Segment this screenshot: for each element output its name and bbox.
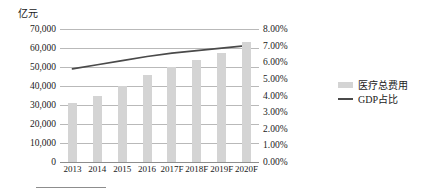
y-axis-left-tick-label: 60,000 <box>30 43 56 53</box>
bar-swatch-icon <box>338 82 353 88</box>
y-axis-right-tick-label: 4.00% <box>263 91 288 101</box>
y-axis-left: 010,00020,00030,00040,00050,00060,00070,… <box>0 29 56 162</box>
plot-area <box>60 29 259 162</box>
x-axis-tick-label: 2015 <box>113 163 131 175</box>
x-axis-tick-label: 2019F <box>210 163 233 175</box>
bar <box>192 60 201 162</box>
x-axis-tick-label: 2018F <box>185 163 208 175</box>
bar <box>93 96 102 163</box>
x-axis-tick-label: 2013 <box>63 163 81 175</box>
legend-item-label: 医疗总费用 <box>358 79 408 92</box>
legend-item-label: GDP占比 <box>358 93 398 106</box>
legend-item-total-health-expenditure: 医疗总费用 <box>338 78 426 92</box>
line-swatch-icon <box>338 98 353 100</box>
bar <box>143 75 152 162</box>
bar <box>118 86 127 162</box>
y-axis-right-tick-label: 0.00% <box>263 157 288 167</box>
x-axis-tick-label: 2016 <box>138 163 156 175</box>
y-axis-left-tick-label: 0 <box>51 157 56 167</box>
x-axis-tick-label: 2014 <box>88 163 106 175</box>
y-axis-left-tick-label: 20,000 <box>30 119 56 129</box>
y-axis-right: 0.00%1.00%2.00%3.00%4.00%5.00%6.00%7.00%… <box>263 29 309 162</box>
y-axis-right-tick-label: 6.00% <box>263 57 288 67</box>
bar <box>167 67 176 162</box>
chart-legend: 医疗总费用 GDP占比 <box>338 78 426 106</box>
x-axis-tick-label: 2017F <box>160 163 183 175</box>
y-axis-left-tick-label: 70,000 <box>30 24 56 34</box>
y-axis-right-tick-label: 3.00% <box>263 107 288 117</box>
legend-item-gdp-share: GDP占比 <box>338 92 426 106</box>
y-axis-right-tick-label: 2.00% <box>263 124 288 134</box>
footer-rule <box>36 187 106 188</box>
line-series-layer <box>60 29 259 162</box>
y-axis-right-tick-label: 1.00% <box>263 140 288 150</box>
x-axis-tick-label: 2020F <box>235 163 258 175</box>
y-axis-left-tick-label: 10,000 <box>30 138 56 148</box>
y-axis-unit-label: 亿元 <box>18 8 38 20</box>
x-axis: 20132014201520162017F2018F2019F2020F <box>60 163 259 177</box>
y-axis-right-tick-label: 7.00% <box>263 41 288 51</box>
y-axis-right-tick-label: 8.00% <box>263 24 288 34</box>
bar <box>217 53 226 162</box>
bar <box>242 42 251 162</box>
chart-container: 亿元 010,00020,00030,00040,00050,00060,000… <box>0 0 428 194</box>
y-axis-left-tick-label: 40,000 <box>30 81 56 91</box>
bar <box>68 103 77 162</box>
y-axis-left-tick-label: 30,000 <box>30 100 56 110</box>
y-axis-left-tick-label: 50,000 <box>30 62 56 72</box>
y-axis-right-tick-label: 5.00% <box>263 74 288 84</box>
